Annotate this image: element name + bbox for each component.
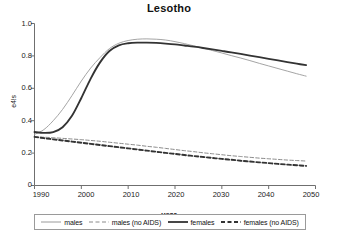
x-tick-label-3: 2020: [163, 191, 189, 199]
chart-legend: males males (no AIDS) females females (n…: [34, 214, 306, 230]
y-axis-ticks: [31, 24, 35, 186]
legend-label-males-no-aids: males (no AIDS): [112, 219, 161, 226]
legend-item-males: males: [41, 219, 82, 226]
legend-item-males-no-aids: males (no AIDS): [89, 219, 161, 226]
y-axis-label: e4!s: [10, 91, 17, 113]
x-tick-label-0: 1990: [28, 191, 54, 199]
series-line-females-no-aids: [35, 137, 307, 166]
series-line-males-no-aids: [35, 137, 307, 161]
y-tick-label-4: 0.8: [14, 52, 32, 60]
plot-area: e4!s 1.0 0.8 0.6 0.4 0.2 0 1990 2000 201…: [0, 14, 338, 200]
plot-svg: [0, 14, 338, 200]
x-tick-label-1: 2000: [73, 191, 99, 199]
series-line-females: [35, 43, 307, 133]
y-tick-label-3: 0.6: [14, 84, 32, 92]
series-line-males: [35, 39, 307, 135]
y-tick-label-5: 1.0: [14, 20, 32, 28]
x-tick-label-2: 2010: [118, 191, 144, 199]
legend-label-females-no-aids: females (no AIDS): [244, 219, 299, 226]
legend-swatch-females-no-aids: [221, 219, 241, 225]
legend-label-males: males: [64, 219, 82, 226]
data-series-group: [35, 39, 307, 166]
chart-title: Lesotho: [0, 2, 338, 14]
legend-swatch-females: [168, 219, 188, 225]
legend-swatch-males: [41, 219, 61, 225]
legend-item-females-no-aids: females (no AIDS): [221, 219, 299, 226]
legend-label-females: females: [191, 219, 215, 226]
y-tick-label-1: 0.2: [14, 149, 32, 157]
x-tick-label-6: 2050: [298, 191, 324, 199]
y-tick-label-0: 0: [14, 181, 32, 189]
legend-item-females: females: [168, 219, 215, 226]
y-tick-label-2: 0.4: [14, 117, 32, 125]
legend-swatch-males-no-aids: [89, 219, 109, 225]
x-axis-ticks: [35, 186, 316, 190]
chart-container: Lesotho e4!s 1.0 0.8 0.6 0.4 0.2 0 1990 …: [0, 0, 338, 241]
x-tick-label-4: 2030: [208, 191, 234, 199]
x-tick-label-5: 2040: [253, 191, 279, 199]
